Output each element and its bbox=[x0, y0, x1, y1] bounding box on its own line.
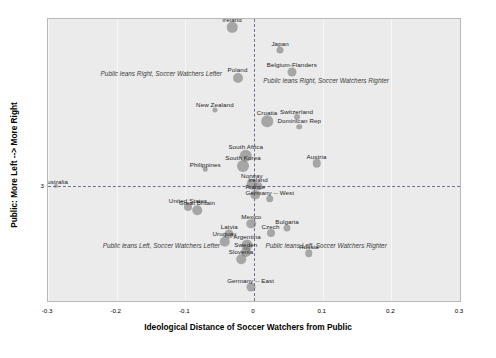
x-axis-tick-label: 0 bbox=[251, 307, 254, 314]
gridline-vertical bbox=[391, 19, 392, 301]
quadrant-annotation: Public leans Left, Soccer Watchers Lefte… bbox=[103, 241, 220, 248]
data-point-label: Dominican Rep bbox=[277, 117, 321, 124]
data-point-bubble bbox=[237, 160, 249, 172]
gridline-vertical bbox=[185, 19, 186, 301]
data-point-label: Croatia bbox=[257, 109, 278, 116]
data-point-bubble bbox=[212, 107, 217, 112]
data-point-label: Ireland bbox=[248, 176, 268, 183]
gridline-vertical bbox=[323, 19, 324, 301]
data-point-label: South Africa bbox=[229, 143, 264, 150]
y-axis-title: Public: More Left --> More Right bbox=[9, 65, 19, 265]
data-point-label: Argentina bbox=[233, 232, 260, 239]
gridline-vertical bbox=[117, 19, 118, 301]
x-axis-tick-label: 0.1 bbox=[317, 307, 326, 314]
quadrant-annotation: Public leans Right, Soccer Watchers Righ… bbox=[263, 76, 389, 83]
data-point-bubble bbox=[284, 224, 291, 231]
data-point-bubble bbox=[261, 116, 273, 128]
data-point-bubble bbox=[227, 22, 238, 33]
x-axis-tick-label: 0.2 bbox=[386, 307, 395, 314]
y-axis-tick-label: 3 bbox=[34, 182, 44, 189]
data-point-label: Mexico bbox=[241, 212, 261, 219]
data-point-bubble bbox=[247, 219, 257, 229]
data-point-label: Bulgaria bbox=[275, 218, 299, 225]
data-point-bubble bbox=[203, 167, 208, 172]
quadrant-annotation: Public leans Left, Soccer Watchers Right… bbox=[265, 241, 386, 248]
data-point-bubble bbox=[312, 159, 321, 168]
data-point-label: Germany -- West bbox=[246, 188, 295, 195]
data-point-label: Japan bbox=[271, 40, 288, 47]
data-point-label: Austria bbox=[307, 152, 327, 159]
x-axis-title: Ideological Distance of Soccer Watchers … bbox=[0, 322, 496, 332]
data-point-bubble bbox=[266, 195, 274, 203]
data-point-bubble bbox=[192, 205, 202, 215]
data-point-bubble bbox=[246, 283, 255, 292]
quadrant-annotation: Public leans Right, Soccer Watchers Left… bbox=[101, 70, 222, 77]
data-point-label: Germany -- East bbox=[227, 276, 274, 283]
data-point-label: Ireland bbox=[222, 18, 242, 22]
data-point-bubble bbox=[236, 254, 246, 264]
data-point-label: Sweden bbox=[234, 240, 257, 247]
data-point-bubble bbox=[267, 229, 275, 237]
x-axis-tick-label: -0.1 bbox=[179, 307, 190, 314]
gridline-vertical bbox=[460, 19, 461, 301]
data-point-label: Poland bbox=[228, 66, 248, 73]
data-point-bubble bbox=[277, 47, 284, 54]
data-point-label: Philippines bbox=[190, 160, 221, 167]
data-point-label: Switzerland bbox=[280, 107, 313, 114]
data-point-bubble bbox=[219, 236, 230, 247]
data-point-bubble bbox=[54, 184, 58, 188]
gridline-vertical bbox=[48, 19, 49, 301]
plot-panel: IrelandJapanBelgium-FlandersPolandNew Ze… bbox=[47, 18, 461, 302]
data-point-label: Slovenia bbox=[229, 248, 254, 255]
data-point-bubble bbox=[297, 124, 303, 130]
data-point-label: Great Britain bbox=[179, 199, 215, 206]
data-point-label: Australia bbox=[47, 177, 68, 184]
data-point-bubble bbox=[305, 249, 313, 257]
x-axis-tick-label: -0.3 bbox=[42, 307, 53, 314]
x-axis-tick-label: -0.2 bbox=[110, 307, 121, 314]
scatter-chart: IrelandJapanBelgium-FlandersPolandNew Ze… bbox=[0, 0, 496, 358]
data-point-label: New Zealand bbox=[196, 101, 234, 108]
x-axis-tick-label: 0.3 bbox=[455, 307, 464, 314]
data-point-label: Belgium-Flanders bbox=[267, 61, 317, 68]
data-point-bubble bbox=[233, 73, 243, 83]
data-point-label: South Korea bbox=[225, 153, 261, 160]
